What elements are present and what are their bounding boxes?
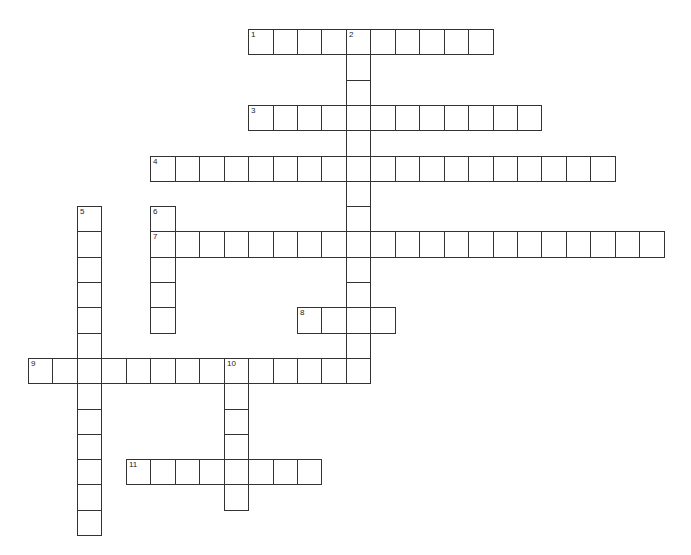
crossword-cell[interactable]: 5 (77, 206, 102, 232)
crossword-cell[interactable] (346, 80, 371, 106)
crossword-cell[interactable] (224, 459, 249, 485)
crossword-cell[interactable] (370, 105, 396, 131)
crossword-cell[interactable] (541, 156, 567, 182)
crossword-cell[interactable] (468, 231, 494, 258)
crossword-cell[interactable] (590, 156, 616, 182)
crossword-cell[interactable] (224, 434, 249, 460)
crossword-cell[interactable] (77, 231, 102, 258)
crossword-cell[interactable] (224, 156, 249, 182)
crossword-cell[interactable] (77, 434, 102, 460)
crossword-cell[interactable] (52, 358, 78, 384)
crossword-cell[interactable] (517, 105, 542, 131)
crossword-cell[interactable] (395, 29, 420, 55)
crossword-cell[interactable] (468, 105, 494, 131)
crossword-cell[interactable] (615, 231, 640, 258)
crossword-cell[interactable] (273, 105, 298, 131)
crossword-cell[interactable] (273, 29, 298, 55)
crossword-cell[interactable] (224, 383, 249, 410)
crossword-cell[interactable] (346, 54, 371, 81)
crossword-cell[interactable]: 4 (150, 156, 176, 182)
crossword-cell[interactable] (444, 156, 469, 182)
crossword-cell[interactable] (77, 282, 102, 308)
crossword-cell[interactable] (77, 484, 102, 511)
crossword-cell[interactable] (77, 409, 102, 435)
crossword-cell[interactable]: 2 (346, 29, 371, 55)
crossword-cell[interactable] (541, 231, 567, 258)
crossword-cell[interactable] (321, 231, 347, 258)
crossword-cell[interactable] (346, 105, 371, 131)
crossword-cell[interactable] (517, 156, 542, 182)
crossword-cell[interactable] (419, 29, 445, 55)
crossword-cell[interactable]: 8 (297, 307, 322, 334)
crossword-cell[interactable] (248, 231, 274, 258)
crossword-cell[interactable] (273, 156, 298, 182)
crossword-cell[interactable] (346, 130, 371, 157)
crossword-cell[interactable] (150, 257, 176, 283)
crossword-cell[interactable] (419, 156, 445, 182)
crossword-cell[interactable] (321, 156, 347, 182)
crossword-cell[interactable] (199, 358, 225, 384)
crossword-cell[interactable] (321, 358, 347, 384)
crossword-cell[interactable] (175, 459, 200, 485)
crossword-cell[interactable] (321, 307, 347, 334)
crossword-cell[interactable] (444, 29, 469, 55)
crossword-cell[interactable] (150, 459, 176, 485)
crossword-cell[interactable] (101, 358, 127, 384)
crossword-cell[interactable]: 3 (248, 105, 274, 131)
crossword-cell[interactable] (517, 231, 542, 258)
crossword-cell[interactable] (77, 510, 102, 536)
crossword-cell[interactable] (370, 307, 396, 334)
crossword-cell[interactable] (566, 231, 591, 258)
crossword-cell[interactable] (346, 282, 371, 308)
crossword-cell[interactable] (297, 156, 322, 182)
crossword-cell[interactable] (444, 231, 469, 258)
crossword-cell[interactable] (493, 156, 518, 182)
crossword-cell[interactable] (273, 231, 298, 258)
crossword-cell[interactable]: 10 (224, 358, 249, 384)
crossword-cell[interactable] (175, 231, 200, 258)
crossword-cell[interactable] (566, 156, 591, 182)
crossword-cell[interactable] (248, 156, 274, 182)
crossword-cell[interactable] (224, 409, 249, 435)
crossword-cell[interactable] (224, 484, 249, 511)
crossword-cell[interactable] (444, 105, 469, 131)
crossword-cell[interactable] (297, 358, 322, 384)
crossword-cell[interactable] (199, 459, 225, 485)
crossword-cell[interactable] (321, 105, 347, 131)
crossword-cell[interactable]: 7 (150, 231, 176, 258)
crossword-cell[interactable] (493, 231, 518, 258)
crossword-cell[interactable] (346, 231, 371, 258)
crossword-cell[interactable] (77, 307, 102, 334)
crossword-cell[interactable] (150, 358, 176, 384)
crossword-cell[interactable] (77, 358, 102, 384)
crossword-cell[interactable] (77, 459, 102, 485)
crossword-cell[interactable] (150, 307, 176, 334)
crossword-cell[interactable] (468, 156, 494, 182)
crossword-cell[interactable] (248, 459, 274, 485)
crossword-cell[interactable] (199, 156, 225, 182)
crossword-cell[interactable] (77, 383, 102, 410)
crossword-cell[interactable] (297, 231, 322, 258)
crossword-cell[interactable]: 11 (126, 459, 151, 485)
crossword-cell[interactable] (248, 358, 274, 384)
crossword-cell[interactable] (224, 231, 249, 258)
crossword-cell[interactable] (346, 206, 371, 232)
crossword-cell[interactable] (346, 257, 371, 283)
crossword-cell[interactable] (346, 307, 371, 334)
crossword-cell[interactable]: 9 (28, 358, 53, 384)
crossword-cell[interactable] (273, 459, 298, 485)
crossword-cell[interactable] (297, 29, 322, 55)
crossword-cell[interactable] (346, 156, 371, 182)
crossword-cell[interactable] (639, 231, 665, 258)
crossword-cell[interactable] (77, 333, 102, 359)
crossword-cell[interactable] (590, 231, 616, 258)
crossword-cell[interactable] (395, 105, 420, 131)
crossword-cell[interactable] (468, 29, 494, 55)
crossword-cell[interactable] (346, 333, 371, 359)
crossword-cell[interactable]: 6 (150, 206, 176, 232)
crossword-cell[interactable] (346, 358, 371, 384)
crossword-cell[interactable] (419, 231, 445, 258)
crossword-cell[interactable] (370, 156, 396, 182)
crossword-cell[interactable] (395, 231, 420, 258)
crossword-cell[interactable] (370, 29, 396, 55)
